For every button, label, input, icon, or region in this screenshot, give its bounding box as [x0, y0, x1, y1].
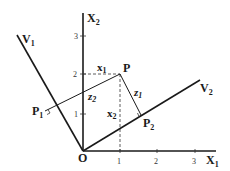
segment-x2-label: x2: [107, 107, 117, 121]
x2-axis-label: X2: [87, 11, 100, 27]
point-p-label: P: [123, 61, 130, 75]
x1-tick-label-3: 3: [192, 157, 196, 166]
v2-label: V2: [200, 81, 213, 97]
origin-label: O: [78, 151, 87, 165]
x1-tick-label-2: 2: [154, 157, 158, 166]
x2-tick-label-2: 2: [73, 70, 77, 79]
x1-tick-label-1: 1: [117, 157, 121, 166]
segment-z1-label: z1: [133, 86, 142, 100]
segment-z2-label: z2: [87, 90, 96, 104]
diagram-canvas: X2 X1 O 1 2 3 1 2 3 V1 V2 P P1 P2 x1 x2 …: [0, 0, 230, 171]
point-p1-label: P1: [32, 104, 43, 120]
v1-axis: [17, 35, 83, 151]
segment-x1-label: x1: [97, 61, 107, 75]
point-p2-label: P2: [143, 116, 154, 132]
x2-tick-label-3: 3: [74, 32, 78, 41]
x2-tick-label-1: 1: [74, 110, 78, 119]
x1-axis-label: X1: [206, 153, 219, 169]
v1-label: V1: [22, 32, 35, 48]
